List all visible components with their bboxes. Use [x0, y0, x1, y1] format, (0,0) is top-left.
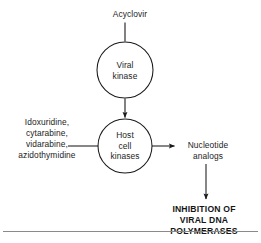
label-acyclovir: Acyclovir	[95, 9, 165, 20]
node-viral-kinase-label: Viral kinase	[97, 60, 153, 81]
label-inhibition-of-viral-dna-polymerases: INHIBITION OF VIRAL DNA POLYMERASES	[147, 204, 261, 237]
node-host-cell-kinases-label: Host cell kinases	[98, 130, 152, 162]
bottom-divider	[3, 231, 258, 232]
label-substrate-drugs: Idoxuridine, cytarabine, vidarabine, azi…	[6, 117, 88, 161]
label-nucleotide-analogs: Nucleotide analogs	[175, 140, 241, 161]
antiviral-pathway-figure: Viral kinase Host cell kinases Acyclovir…	[0, 0, 261, 243]
